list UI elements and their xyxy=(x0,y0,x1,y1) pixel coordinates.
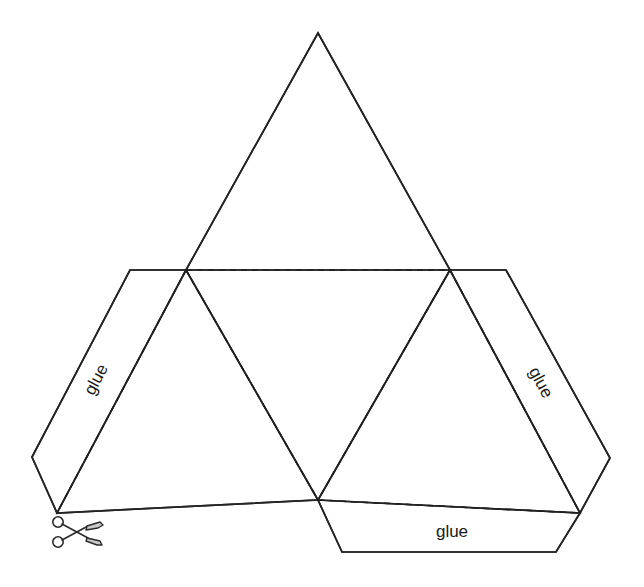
face-digit: 2 xyxy=(307,436,329,480)
face-digit: 2 xyxy=(241,449,282,498)
face-digit: 1 xyxy=(179,308,201,352)
face-digit: 1 xyxy=(506,461,555,502)
glue-flap-label: glue xyxy=(525,364,557,401)
face-digit: 1 xyxy=(210,275,259,316)
face-digit: 1 xyxy=(441,305,463,349)
tetrahedron-net-diagram: 111112112112 glueglueglue xyxy=(0,0,644,587)
glue-flap-label: glue xyxy=(436,522,468,541)
face-digit: 1 xyxy=(373,226,422,267)
face-digit: 1 xyxy=(307,70,329,114)
net-canvas: 111112112112 glueglueglue xyxy=(0,0,644,587)
scissors-icon xyxy=(53,517,103,547)
face-digit: 1 xyxy=(376,275,425,316)
glue-flap-label: glue xyxy=(80,361,112,398)
face-digits-group: 111112112112 xyxy=(78,70,555,505)
face-digit: 1 xyxy=(78,463,127,504)
face-digit: 1 xyxy=(213,226,262,267)
face-digit: 2 xyxy=(355,451,396,500)
